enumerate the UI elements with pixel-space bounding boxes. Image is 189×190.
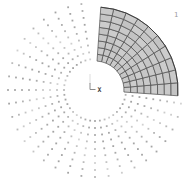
mesh-node-dot <box>139 96 141 98</box>
mesh-node-dot <box>62 121 64 123</box>
mesh-node-dot <box>106 125 108 127</box>
mesh-node-dot <box>22 101 24 103</box>
mesh-node-dot <box>119 165 121 167</box>
x-axis-label: X <box>98 86 102 94</box>
mesh-node-dot <box>137 103 139 105</box>
mesh-node-dot <box>14 89 16 91</box>
mesh-node-dot <box>74 26 76 28</box>
mesh-node-dot <box>74 49 76 51</box>
mesh-node-dot <box>106 161 108 163</box>
mesh-node-dot <box>33 151 35 153</box>
mesh-node-dot <box>42 89 44 91</box>
mesh-node-dot <box>116 120 118 122</box>
mesh-node-dot <box>51 30 53 32</box>
mesh-node-dot <box>94 169 96 171</box>
mesh-node-dot <box>82 10 84 12</box>
mesh-node-dot <box>126 121 128 123</box>
mesh-node-dot <box>35 132 37 134</box>
mesh-node-dot <box>132 95 134 97</box>
mesh-node-dot <box>24 140 26 142</box>
graphics-window: X 1 <box>0 0 189 190</box>
mesh-node-dot <box>80 132 82 134</box>
mesh-node-dot <box>47 24 49 26</box>
mesh-node-dot <box>115 152 117 154</box>
mesh-node-dot <box>58 116 60 118</box>
mesh-node-dot <box>148 128 150 130</box>
mesh-node-dot <box>85 60 87 62</box>
mesh-node-dot <box>124 148 126 150</box>
mesh-node-dot <box>82 125 84 127</box>
mesh-node-dot <box>55 12 57 14</box>
mesh-node-dot <box>67 6 69 8</box>
mesh-node-dot <box>38 33 40 35</box>
meshed-quarter-annulus <box>97 7 178 96</box>
mesh-node-dot <box>49 89 51 91</box>
mesh-node-dot <box>43 19 45 21</box>
mesh-node-dot <box>50 96 52 98</box>
mesh-node-dot <box>153 132 155 134</box>
mesh-node-dot <box>64 148 66 150</box>
mesh-node-dot <box>177 116 179 118</box>
mesh-node-dot <box>51 75 53 77</box>
mesh-node-dot <box>23 125 25 127</box>
mesh-node-dot <box>47 136 49 138</box>
mesh-node-dot <box>129 137 131 139</box>
mesh-node-dot <box>84 24 86 26</box>
mesh-node-dot <box>67 142 69 144</box>
mesh-node-dot <box>112 114 114 116</box>
mesh-node-dot <box>108 117 110 119</box>
mesh-node-dot <box>68 53 70 55</box>
mesh-node-dot <box>77 55 79 57</box>
mesh-node-dot <box>170 114 172 116</box>
mesh-node-dot <box>112 145 114 147</box>
mesh-node-dot <box>83 161 85 163</box>
mesh-node-dot <box>55 167 57 169</box>
mesh-node-dot <box>46 54 48 56</box>
mesh-node-dot <box>65 99 67 101</box>
mesh-node-dot <box>85 31 87 33</box>
mesh-node-dot <box>15 102 17 104</box>
mesh-node-dot <box>59 137 61 139</box>
mesh-node-dot <box>29 136 31 138</box>
mesh-node-dot <box>58 63 60 65</box>
mesh-node-dot <box>134 110 136 112</box>
mesh-node-dot <box>41 128 43 130</box>
mesh-node-dot <box>55 143 57 145</box>
mesh-node-dot <box>22 78 24 80</box>
mesh-node-dot <box>29 42 31 44</box>
mesh-node-dot <box>76 114 78 116</box>
mesh-node-dot <box>117 159 119 161</box>
mesh-node-dot <box>67 172 69 174</box>
mesh-node-dot <box>63 94 65 96</box>
mesh-node-dot <box>31 110 33 112</box>
mesh-node-dot <box>121 172 123 174</box>
mesh-node-dot <box>72 67 74 69</box>
mesh-node-dot <box>118 135 120 137</box>
mesh-node-dot <box>146 141 148 143</box>
mesh-node-dot <box>7 89 9 91</box>
mesh-element <box>137 86 144 94</box>
mesh-node-dot <box>31 69 33 71</box>
mesh-node-dot <box>94 127 96 129</box>
mesh-node-dot <box>47 42 49 44</box>
mesh-node-dot <box>29 122 31 124</box>
mesh-node-dot <box>110 139 112 141</box>
mesh-node-dot <box>41 50 43 52</box>
mesh-node-dot <box>69 107 71 109</box>
mesh-node-dot <box>125 111 127 113</box>
mesh-node-dot <box>159 99 161 101</box>
mesh-node-dot <box>111 123 113 125</box>
mesh-node-dot <box>58 77 60 79</box>
mesh-node-dot <box>166 101 168 103</box>
mesh-element <box>131 86 138 93</box>
mesh-node-dot <box>87 45 89 47</box>
mesh-node-dot <box>94 120 96 122</box>
mesh-plot-canvas[interactable]: X 1 <box>0 0 189 190</box>
mesh-node-dot <box>88 52 90 54</box>
mesh-node-dot <box>38 146 40 148</box>
mesh-node-dot <box>69 13 71 15</box>
mesh-node-dot <box>70 135 72 137</box>
mesh-node-dot <box>8 75 10 77</box>
mesh-node-dot <box>72 20 74 22</box>
mesh-node-dot <box>43 159 45 161</box>
